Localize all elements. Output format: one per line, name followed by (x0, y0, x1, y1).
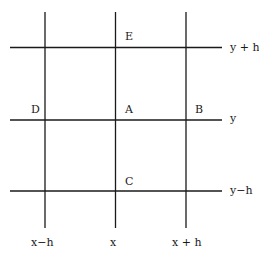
column-label-x: x (110, 237, 116, 248)
point-label-c: C (125, 176, 133, 187)
point-label-a: A (125, 104, 133, 115)
point-label-e: E (125, 31, 133, 42)
point-label-d: D (31, 104, 40, 115)
grid-diagram: E D A B C y + h y y−h x−h x x + h (0, 0, 259, 256)
row-label-y-minus-h: y−h (230, 185, 253, 196)
row-label-y-plus-h: y + h (230, 42, 259, 53)
column-label-x-minus-h: x−h (31, 237, 54, 248)
row-label-y: y (230, 113, 236, 124)
point-label-b: B (195, 104, 203, 115)
column-label-x-plus-h: x + h (172, 237, 202, 248)
